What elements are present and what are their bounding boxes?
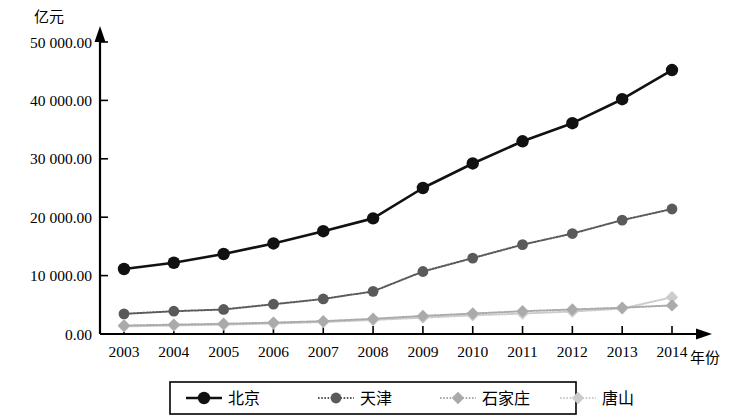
x-tick-label: 2005 [208, 343, 239, 360]
line-chart: 亿元 年份 0.0010 000.0020 000.0030 000.0040 … [0, 0, 742, 416]
legend-label: 北京 [228, 389, 260, 408]
x-tick-label: 2013 [607, 343, 638, 360]
x-tick-label: 2008 [358, 343, 389, 360]
y-tick-label: 10 000.00 [30, 267, 92, 284]
data-point-marker [617, 215, 628, 226]
data-point-marker [417, 182, 429, 194]
data-point-marker [118, 263, 130, 275]
data-point-marker [418, 266, 429, 277]
data-point-marker [218, 304, 229, 315]
legend-label: 天津 [360, 389, 392, 408]
data-point-marker [368, 286, 379, 297]
y-tick-label: 40 000.00 [30, 92, 92, 109]
data-point-marker [119, 308, 130, 319]
y-tick-label: 0.00 [65, 326, 92, 343]
data-point-marker [516, 135, 528, 147]
legend-marker-swatch [198, 392, 210, 404]
data-point-marker [616, 93, 628, 105]
data-point-marker [317, 225, 329, 237]
chart-canvas: 亿元 年份 0.0010 000.0020 000.0030 000.0040 … [0, 0, 742, 416]
data-point-marker [517, 239, 528, 250]
data-point-marker [168, 257, 180, 269]
data-point-marker [217, 248, 229, 260]
data-point-marker [667, 204, 678, 215]
data-point-marker [467, 253, 478, 264]
x-tick-label: 2010 [457, 343, 488, 360]
x-tick-label: 2004 [158, 343, 189, 360]
data-point-marker [318, 294, 329, 305]
data-point-marker [268, 299, 279, 310]
data-point-marker [168, 306, 179, 317]
legend-label: 唐山 [602, 389, 634, 408]
data-point-marker [566, 117, 578, 129]
x-tick-label: 2009 [407, 343, 438, 360]
data-point-marker [567, 228, 578, 239]
data-point-marker [367, 212, 379, 224]
y-axis-unit-label: 亿元 [34, 8, 64, 26]
x-tick-label: 2007 [308, 343, 339, 360]
data-point-marker [666, 64, 678, 76]
x-tick-label: 2011 [507, 343, 537, 360]
y-tick-label: 20 000.00 [30, 209, 92, 226]
x-tick-label: 2003 [109, 343, 140, 360]
y-tick-label: 50 000.00 [30, 34, 92, 51]
legend-label: 石家庄 [482, 389, 530, 408]
data-point-marker [267, 237, 279, 249]
x-tick-label: 2014 [657, 343, 688, 360]
x-tick-label: 2012 [557, 343, 588, 360]
x-axis-unit-label: 年份 [690, 349, 720, 367]
y-tick-label: 30 000.00 [30, 150, 92, 167]
legend-marker-swatch [331, 393, 342, 404]
data-point-marker [467, 157, 479, 169]
x-tick-label: 2006 [258, 343, 289, 360]
